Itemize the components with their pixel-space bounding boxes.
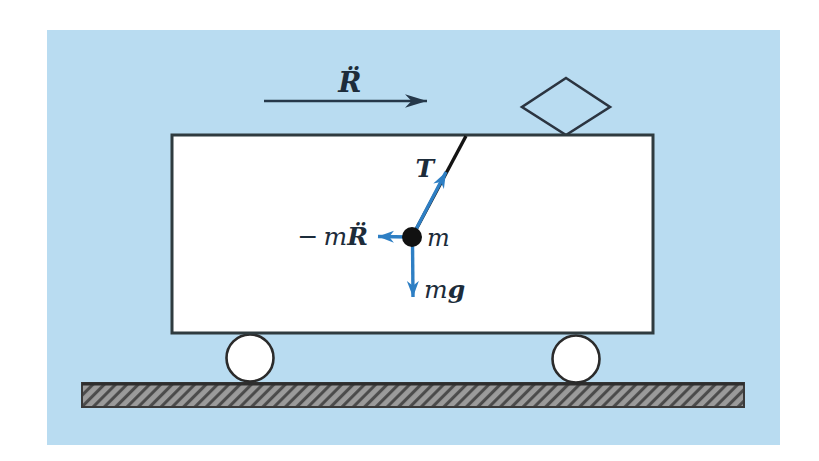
mass-label: m — [427, 224, 450, 252]
acceleration-label: R̈ — [337, 66, 361, 99]
gravity-prefix: m — [424, 275, 448, 304]
ground — [82, 383, 744, 407]
gravity-arrow — [413, 241, 414, 297]
inertial-force-vector-symbol: R̈ — [346, 222, 368, 251]
ground-strip — [82, 383, 744, 407]
wheel-left — [227, 335, 274, 382]
inertial-force-label: − mR̈ — [298, 222, 368, 251]
figure-container: R̈ T − mR̈ mg m — [0, 0, 819, 461]
wheel-right — [553, 336, 600, 383]
gravity-label: mg — [424, 275, 465, 304]
gravity-vector-symbol: g — [448, 275, 465, 304]
figure-canvas: R̈ T − mR̈ mg m — [0, 0, 819, 461]
tension-label: T — [415, 154, 436, 183]
pendulum-bob — [402, 227, 422, 247]
inertial-force-prefix: − m — [298, 222, 348, 251]
